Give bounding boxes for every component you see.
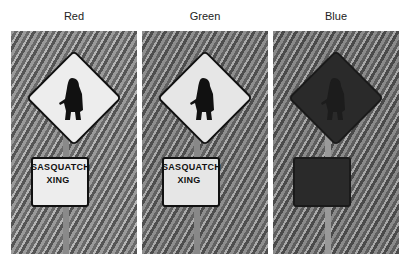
- panel-red: SASQUATCHXING: [11, 31, 137, 254]
- sasquatch-silhouette-icon: [42, 66, 106, 130]
- panel-green: SASQUATCHXING: [142, 31, 268, 254]
- xing-sign-text: [293, 161, 347, 174]
- xing-sign-text: SASQUATCHXING: [162, 161, 216, 187]
- channel-label-red: Red: [11, 10, 137, 22]
- sasquatch-silhouette-icon: [304, 66, 368, 130]
- channel-label-blue: Blue: [273, 10, 399, 22]
- xing-sign-text: SASQUATCHXING: [31, 161, 85, 187]
- sasquatch-silhouette-icon: [173, 66, 237, 130]
- channel-label-green: Green: [142, 10, 268, 22]
- panel-blue: [273, 31, 399, 254]
